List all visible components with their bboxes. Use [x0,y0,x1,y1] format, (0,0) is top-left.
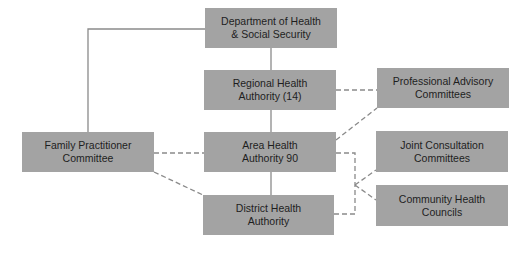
node-label-line2: Councils [399,206,485,219]
node-label-line1: Regional Health [233,77,308,90]
node-regional-health-authority: Regional Health Authority (14) [204,70,336,110]
node-professional-advisory-committees: Professional Advisory Committees [377,68,509,108]
edge-aha-pac [336,108,377,140]
node-label-line1: Professional Advisory [393,75,493,88]
edge-bracket-chc [355,185,376,200]
edge-bracket-jcc [355,170,376,185]
node-label-line2: Authority 90 [242,152,298,165]
node-label-line1: Area Health [242,139,298,152]
edge-fpc-dha [154,172,203,195]
node-label-line1: Department of Health [221,15,321,28]
node-label-line2: Authority (14) [233,90,308,103]
node-label-line1: District Health [236,202,301,215]
node-label-line1: Family Practitioner [45,139,132,152]
edge-aha-bracket [334,153,355,214]
node-label-line2: Authority [236,215,301,228]
node-label-line2: Committee [45,152,132,165]
node-label-line2: & Social Security [221,28,321,41]
node-department-of-health: Department of Health & Social Security [205,8,337,48]
node-joint-consultation-committees: Joint Consultation Committees [376,131,508,172]
node-district-health-authority: District Health Authority [203,195,334,235]
node-label-line2: Committees [400,152,483,165]
node-label-line2: Committees [393,88,493,101]
node-label-line1: Community Health [399,193,485,206]
node-family-practitioner-committee: Family Practitioner Committee [22,132,154,172]
node-community-health-councils: Community Health Councils [376,185,508,226]
node-area-health-authority: Area Health Authority 90 [204,132,336,172]
node-label-line1: Joint Consultation [400,139,483,152]
edge-dhss-fpc [88,29,205,132]
